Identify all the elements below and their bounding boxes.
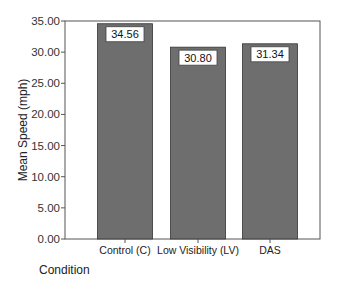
x-tick-label: Control (C) (99, 244, 150, 256)
y-tick-label: 35.00 (31, 15, 60, 27)
data-label: 34.56 (111, 28, 139, 40)
y-tick-label: 5.00 (38, 202, 60, 214)
bar-1 (171, 47, 226, 239)
data-label: 31.34 (256, 48, 284, 60)
bar-0 (98, 24, 153, 239)
y-tick-label: 10.00 (31, 171, 60, 183)
y-tick-label: 30.00 (31, 46, 60, 58)
y-tick-label: 15.00 (31, 140, 60, 152)
y-tick-label: 20.00 (31, 108, 60, 120)
x-tick-label: DAS (259, 244, 281, 256)
y-axis-title: Mean Speed (mph) (16, 79, 30, 182)
bar-2 (243, 44, 298, 239)
x-tick-label: Low Visibility (LV) (157, 244, 239, 256)
data-label: 30.80 (184, 52, 212, 64)
bar-chart: 0.005.0010.0015.0020.0025.0030.0035.00 3… (0, 0, 346, 293)
y-tick-label: 25.00 (31, 77, 60, 89)
x-axis-title: Condition (39, 263, 90, 277)
y-tick-label: 0.00 (38, 233, 60, 245)
